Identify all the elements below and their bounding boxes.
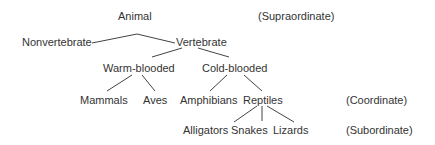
level-label-subordinate: (Subordinate) — [346, 124, 413, 136]
edge-reptiles-lizards — [267, 106, 294, 122]
node-animal: Animal — [118, 10, 152, 22]
edge-animal-vertebrate — [137, 34, 175, 43]
node-mammals: Mammals — [80, 94, 128, 106]
edge-vertebrate-cold — [198, 48, 229, 57]
node-cold-blooded: Cold-blooded — [202, 62, 267, 74]
level-label-supraordinate: (Supraordinate) — [258, 10, 334, 22]
node-aves: Aves — [143, 94, 167, 106]
node-reptiles: Reptiles — [243, 94, 283, 106]
node-alligators: Alligators — [183, 124, 228, 136]
level-label-coordinate: (Coordinate) — [346, 94, 407, 106]
edge-warm-aves — [142, 75, 155, 91]
node-snakes: Snakes — [231, 124, 268, 136]
edge-reptiles-alligators — [234, 106, 257, 122]
edge-warm-mammals — [107, 75, 132, 91]
node-vertebrate: Vertebrate — [176, 36, 227, 48]
edge-cold-reptiles — [244, 75, 262, 91]
edge-animal-nonvertebrate — [92, 34, 137, 43]
node-nonvertebrate: Nonvertebrate — [22, 36, 92, 48]
edge-vertebrate-warm — [152, 48, 182, 57]
node-warm-blooded: Warm-blooded — [103, 62, 175, 74]
edge-cold-amphibians — [210, 75, 227, 91]
node-lizards: Lizards — [273, 124, 308, 136]
node-amphibians: Amphibians — [180, 94, 237, 106]
